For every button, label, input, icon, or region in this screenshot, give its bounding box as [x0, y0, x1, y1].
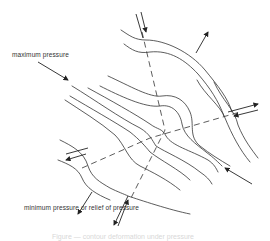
- contour-line: [58, 160, 110, 200]
- axis-line-vertical: [130, 32, 165, 200]
- contour-line: [70, 96, 190, 180]
- contour-line: [88, 88, 218, 172]
- contour-line: [65, 100, 180, 190]
- max-pressure-label: maximum pressure: [12, 51, 69, 58]
- shear-arrow-left-1: [66, 148, 88, 154]
- pressure-arrow-upper-right: [196, 32, 208, 53]
- shear-arrow-top-2: [141, 12, 146, 32]
- contour-line: [124, 44, 224, 116]
- contour-line: [108, 76, 230, 166]
- contour-line: [72, 86, 212, 184]
- contour-line: [121, 30, 232, 112]
- shear-arrow-left-2: [66, 154, 86, 160]
- min-pressure-label: minimum pressure or relief of pressure: [24, 204, 139, 211]
- pressure-arrow-lower-right: [225, 168, 252, 184]
- contour-line: [100, 86, 222, 166]
- contour-line: [214, 82, 258, 158]
- max-pressure-arrow: [38, 62, 68, 80]
- figure-caption: Figure — contour deformation under press…: [52, 233, 194, 240]
